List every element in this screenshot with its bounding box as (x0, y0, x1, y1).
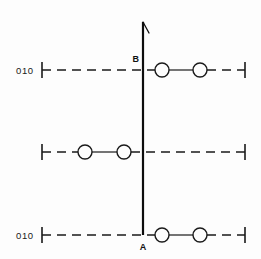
node-circle[interactable] (78, 145, 92, 159)
diagram-figure: 010 010 (0, 0, 261, 259)
row-top: 010 (16, 62, 245, 78)
node-circle[interactable] (193, 63, 207, 77)
node-circle[interactable] (155, 63, 169, 77)
vertical-top-label: B (133, 54, 140, 64)
row-bottom-label: 010 (16, 230, 34, 241)
node-circle[interactable] (193, 228, 207, 242)
vertical-bottom-label: A (140, 242, 147, 252)
node-circle[interactable] (117, 145, 131, 159)
row-top-label: 010 (16, 65, 34, 76)
node-circle[interactable] (155, 228, 169, 242)
diagram-canvas: 010 010 (0, 0, 261, 259)
vertical-axis-line (143, 22, 149, 235)
row-bottom: 010 (16, 227, 245, 243)
